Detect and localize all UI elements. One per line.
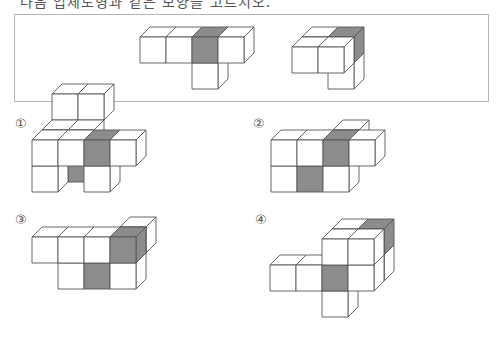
cube	[110, 227, 146, 263]
cube-front-face	[110, 140, 136, 166]
cube-front-face	[297, 166, 323, 192]
cube-front-face	[322, 239, 348, 265]
cube	[349, 130, 385, 166]
option-4-figure[interactable]	[270, 219, 394, 317]
given-figure-rotated	[292, 27, 364, 89]
cube-front-face	[296, 265, 322, 291]
cube-front-face	[322, 291, 348, 317]
cube-front-face	[270, 265, 296, 291]
cube-front-face	[348, 239, 374, 265]
cube-front-face	[32, 237, 58, 263]
option-1-figure[interactable]	[32, 84, 146, 192]
cube-front-face	[32, 166, 58, 192]
cube-front-face	[32, 140, 58, 166]
cube-front-face	[318, 47, 344, 73]
cube-front-face	[110, 263, 136, 289]
cube-front-face	[78, 94, 104, 120]
cube-front-face	[84, 140, 110, 166]
given-figure-front	[140, 27, 254, 89]
cube-figures-canvas	[0, 0, 502, 342]
cube	[348, 229, 384, 265]
cube-front-face	[166, 37, 192, 63]
cube-front-face	[297, 140, 323, 166]
cube	[110, 130, 146, 166]
cube-front-face	[192, 63, 218, 89]
cube-front-face	[322, 265, 348, 291]
cube-front-face	[84, 263, 110, 289]
cube-front-face	[349, 140, 375, 166]
cube-front-face	[323, 166, 349, 192]
cube	[78, 84, 114, 120]
cube-front-face	[58, 140, 84, 166]
cube-front-face	[58, 237, 84, 263]
cube-front-face	[323, 140, 349, 166]
cube-front-face	[140, 37, 166, 63]
cube-front-face	[58, 263, 84, 289]
cube-front-face	[292, 47, 318, 73]
cube-front-face	[84, 237, 110, 263]
option-2-figure[interactable]	[271, 120, 385, 192]
cube-front-face	[84, 166, 110, 192]
cube-front-face	[348, 265, 374, 291]
cube-front-face	[52, 94, 78, 120]
cube-front-face	[271, 140, 297, 166]
cube	[318, 37, 354, 73]
cube-front-face	[271, 166, 297, 192]
cube	[218, 27, 254, 63]
cube-front-face	[110, 237, 136, 263]
option-3-figure[interactable]	[32, 217, 156, 289]
cube-front-face	[218, 37, 244, 63]
cube-front-face	[192, 37, 218, 63]
